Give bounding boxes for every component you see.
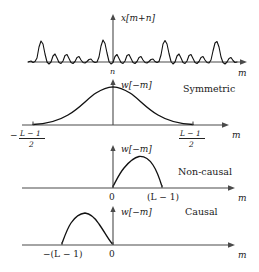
causal-left-tick-label: −(L − 1) — [43, 249, 83, 259]
symmetric-caption: Symmetric — [183, 83, 235, 94]
symmetric-right-tick-numerator: L − 1 — [179, 129, 201, 138]
causal-window-curve — [62, 213, 112, 244]
causal-caption: Causal — [185, 206, 218, 217]
signal-origin-label: n — [110, 67, 115, 76]
noncausal-y-axis-label: w[−m] — [121, 144, 152, 154]
symmetric-left-tick-minus: − — [10, 130, 18, 140]
causal-x-axis-arrow — [228, 242, 235, 248]
symmetric-left-tick-label: − L − 1 2 — [10, 129, 45, 149]
noncausal-window-curve — [113, 156, 162, 186]
noncausal-left-tick-label: 0 — [109, 192, 115, 202]
signal-x-axis-arrow — [240, 59, 247, 65]
input-signal-plot: x[m+n] m n — [28, 13, 247, 78]
noncausal-x-axis-label: m — [238, 193, 247, 203]
causal-y-axis-arrow — [110, 206, 115, 212]
symmetric-x-axis-label: m — [232, 130, 241, 140]
noncausal-caption: Non-causal — [178, 166, 232, 177]
symmetric-y-axis-arrow — [110, 79, 115, 85]
signal-y-axis-label: x[m+n] — [121, 13, 155, 23]
causal-x-axis-label: m — [238, 250, 247, 260]
windowing-figure: x[m+n] m n w[−m] m − — [0, 0, 259, 272]
symmetric-y-axis-label: w[−m] — [121, 80, 152, 90]
signal-waveform — [28, 40, 237, 64]
noncausal-y-axis-arrow — [110, 145, 115, 151]
symmetric-x-axis-arrow — [222, 122, 229, 128]
symmetric-right-tick-denominator: 2 — [188, 140, 194, 149]
symmetric-left-tick-numerator: L − 1 — [19, 129, 41, 138]
non-causal-window-plot: w[−m] m 0 (L − 1) Non-causal — [22, 144, 247, 203]
symmetric-left-tick-denominator: 2 — [28, 140, 34, 149]
causal-window-plot: w[−m] m −(L − 1) 0 Causal — [22, 206, 247, 260]
noncausal-x-axis-arrow — [228, 185, 235, 191]
symmetric-right-tick-label: L − 1 2 — [179, 129, 205, 149]
symmetric-window-plot: w[−m] m − L − 1 2 L − 1 2 Symmetric — [10, 79, 241, 149]
signal-y-axis-arrow — [110, 14, 115, 20]
noncausal-right-tick-label: (L − 1) — [147, 192, 179, 202]
signal-x-axis-label: m — [238, 68, 247, 78]
causal-y-axis-label: w[−m] — [121, 207, 152, 217]
causal-right-tick-label: 0 — [109, 249, 115, 259]
